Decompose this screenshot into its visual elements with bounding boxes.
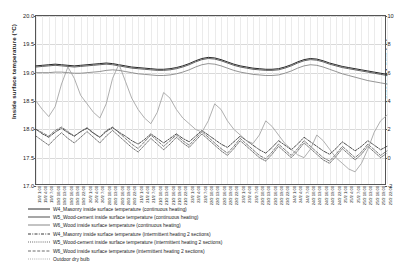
x-tick-label: 21/2 1:00	[139, 186, 144, 203]
x-tick-label: 19/2 10:00	[56, 186, 61, 205]
x-tick-label: 21/2 10:00	[158, 186, 163, 205]
x-tick-label: 23/2 13:00	[266, 186, 271, 205]
y-axis-title-left: Inside surface temperature (°C)	[10, 7, 17, 137]
legend-item[interactable]: W4_Masonry inside surface temperature (c…	[28, 205, 388, 213]
x-tick-label: 21/2 4:00	[145, 186, 150, 203]
legend-key-line	[28, 234, 50, 235]
series-line	[36, 128, 387, 155]
x-tick-label: 20/2 16:00	[120, 186, 125, 205]
x-tick-label: 19/2 1:00	[37, 186, 42, 203]
y-tick-label-right: 10	[388, 13, 394, 19]
legend-item[interactable]: W6_Wood inside surface temperature (cont…	[28, 222, 388, 230]
legend-item[interactable]: W5_Wood-cement inside surface temperatur…	[28, 239, 388, 247]
x-tick-label: 20/2 13:00	[113, 186, 118, 205]
x-tick-label: 20/2 10:00	[107, 186, 112, 205]
x-tick-label: 24/2 19:00	[330, 186, 335, 205]
y-tick-label-right: 2	[388, 126, 391, 132]
x-tick-label: 22/2 13:00	[215, 186, 220, 205]
x-tick-label: 25/2 19:00	[381, 186, 386, 205]
legend-key-line	[28, 209, 50, 210]
x-tick-label: 19/2 13:00	[62, 186, 67, 205]
x-tick-label: 19/2 22:00	[81, 186, 86, 205]
y-tick-label-right: 4	[388, 98, 391, 104]
x-tick-label: 23/2 22:00	[285, 186, 290, 205]
x-tick-label: 21/2 16:00	[171, 186, 176, 205]
x-tick-label: 23/2 1:00	[241, 186, 246, 203]
x-tick-label: 24/2 4:00	[298, 186, 303, 203]
legend-label: W5_Wood-cement inside surface temperatur…	[53, 215, 198, 220]
y-tick-label-left: 20.0	[23, 13, 34, 19]
x-tick-label: 23/2 4:00	[247, 186, 252, 203]
x-tick-label: 24/2 16:00	[324, 186, 329, 205]
x-tick-label: 25/2 22:00	[388, 186, 393, 205]
x-tick-label: 24/2 22:00	[337, 186, 342, 205]
x-tick-label: 23/2 10:00	[260, 186, 265, 205]
x-tick-label: 20/2 22:00	[132, 186, 137, 205]
x-tick-label: 21/2 22:00	[183, 186, 188, 205]
legend-key-line	[28, 251, 50, 252]
legend-label: W5_Wood-cement inside surface temperatur…	[53, 240, 222, 245]
legend-item[interactable]: W5_Wood-cement inside surface temperatur…	[28, 213, 388, 221]
y-tick-label-right: 8	[388, 41, 391, 47]
x-tick-label: 22/2 10:00	[209, 186, 214, 205]
x-tick-label: 19/2 7:00	[49, 186, 54, 203]
x-tick-label: 24/2 7:00	[305, 186, 310, 203]
series-line	[36, 59, 387, 76]
y-tick-label-left: 17.0	[23, 183, 34, 189]
x-tick-label: 23/2 16:00	[273, 186, 278, 205]
series-line	[36, 64, 387, 84]
x-tick-label: 24/2 13:00	[317, 186, 322, 205]
legend-label: W6_Wood inside surface temperature (cont…	[53, 223, 181, 228]
x-tick-label: 22/2 16:00	[222, 186, 227, 205]
plot-area: 17.017.518.018.519.019.520.0 -20246810	[35, 15, 386, 185]
x-tick-label: 21/2 19:00	[177, 186, 182, 205]
x-tick-label: 21/2 13:00	[164, 186, 169, 205]
legend-item[interactable]: W6_Wood inside surface temperature (inte…	[28, 247, 388, 255]
x-tick-label: 25/2 4:00	[349, 186, 354, 203]
series-line	[36, 130, 387, 163]
y-tick-label-right: 0	[388, 155, 391, 161]
y-tick-label-left: 17.5	[23, 155, 34, 161]
x-tick-label: 25/2 13:00	[368, 186, 373, 205]
series-line	[36, 64, 387, 172]
x-tick-label: 20/2 19:00	[126, 186, 131, 205]
x-tick-label: 22/2 22:00	[234, 186, 239, 205]
legend-key-line	[28, 242, 50, 243]
legend-label: W6_Wood inside surface temperature (inte…	[53, 249, 205, 254]
x-tick-label: 20/2 4:00	[94, 186, 99, 203]
x-tick-label: 23/2 19:00	[279, 186, 284, 205]
x-tick-label: 25/2 7:00	[356, 186, 361, 203]
legend: W4_Masonry inside surface temperature (c…	[28, 205, 388, 264]
legend-label: W4_Masonry inside surface temperature (i…	[53, 232, 211, 237]
x-tick-label: 24/2 1:00	[292, 186, 297, 203]
y-tick-label-left: 18.5	[23, 98, 34, 104]
x-tick-label: 22/2 19:00	[228, 186, 233, 205]
legend-key-line	[28, 259, 50, 260]
y-tick-label-left: 19.0	[23, 70, 34, 76]
x-tick-label: 19/2 4:00	[43, 186, 48, 203]
y-tick-label-left: 18.0	[23, 126, 34, 132]
x-tick-label: 22/2 7:00	[203, 186, 208, 203]
x-tick-label: 25/2 10:00	[362, 186, 367, 205]
series-lines	[36, 16, 387, 186]
x-tick-label: 24/2 10:00	[311, 186, 316, 205]
y-tick-label-left: 19.5	[23, 41, 34, 47]
x-tick-label: 19/2 19:00	[75, 186, 80, 205]
x-tick-label: 22/2 1:00	[190, 186, 195, 203]
x-tick-label: 19/2 16:00	[69, 186, 74, 205]
legend-label: Outdoor dry bulb	[53, 257, 89, 262]
x-tick-label: 25/2 1:00	[343, 186, 348, 203]
legend-key-line	[28, 217, 50, 218]
x-tick-label: 20/2 7:00	[100, 186, 105, 203]
x-tick-label: 21/2 7:00	[151, 186, 156, 203]
legend-key-line	[28, 225, 50, 226]
chart-root: Inside surface temperature (°C) Outdoor …	[0, 0, 416, 273]
legend-item[interactable]: W4_Masonry inside surface temperature (i…	[28, 230, 388, 238]
y-tick-label-right: 6	[388, 70, 391, 76]
x-tick-label: 20/2 1:00	[88, 186, 93, 203]
x-tick-label: 23/2 7:00	[254, 186, 259, 203]
x-tick-label: 22/2 4:00	[196, 186, 201, 203]
x-tick-label: 25/2 16:00	[375, 186, 380, 205]
legend-label: W4_Masonry inside surface temperature (c…	[53, 207, 187, 212]
legend-item[interactable]: Outdoor dry bulb	[28, 255, 388, 263]
